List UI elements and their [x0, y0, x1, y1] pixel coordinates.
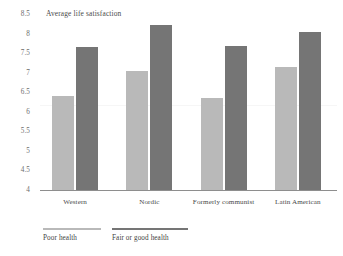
x-axis-category-label: Western: [40, 198, 110, 208]
plot-area: [40, 12, 338, 190]
bar: [150, 25, 172, 190]
x-axis-category-label: Latin American: [263, 198, 333, 208]
bar: [225, 46, 247, 190]
y-axis-tick-label: 4.5: [0, 166, 30, 174]
y-axis-tick-label: 8.5: [0, 10, 30, 18]
bar: [275, 67, 297, 190]
legend-swatch: [112, 228, 188, 230]
bar: [52, 96, 74, 190]
bar: [126, 71, 148, 190]
bar: [76, 47, 98, 190]
legend-label: Fair or good health: [112, 234, 169, 242]
bar: [299, 32, 321, 190]
legend-swatch: [43, 228, 101, 230]
y-axis-tick-label: 8: [0, 30, 30, 38]
y-axis-tick-label: 5.5: [0, 127, 30, 135]
legend-label: Poor health: [43, 234, 77, 242]
y-axis-tick-label: 7.5: [0, 49, 30, 57]
x-axis-category-label: Nordic: [114, 198, 184, 208]
y-axis-tick-label: 5: [0, 147, 30, 155]
bar-chart: Average life satisfaction 8.587.576.565.…: [0, 0, 343, 256]
y-axis-tick-label: 4: [0, 186, 30, 194]
x-axis-category-label: Formerly communist: [189, 198, 259, 208]
y-axis-tick-label: 6: [0, 108, 30, 116]
y-axis-tick-label: 6.5: [0, 88, 30, 96]
bar: [201, 98, 223, 190]
y-axis-tick-label: 7: [0, 69, 30, 77]
x-axis-line: [40, 190, 337, 191]
